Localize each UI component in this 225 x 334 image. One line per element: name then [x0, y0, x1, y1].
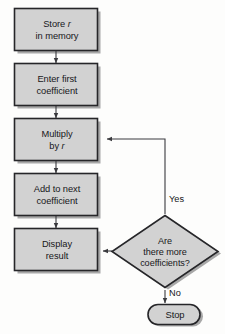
edge-label-yes: Yes	[169, 194, 184, 204]
shape-store	[15, 9, 98, 51]
shape-multiply	[15, 119, 98, 161]
shape-add-next	[15, 174, 98, 216]
edge-label-no: No	[169, 288, 181, 298]
flowchart-graphics	[0, 0, 225, 334]
shape-stop	[148, 305, 200, 325]
node-shapes	[15, 9, 219, 325]
shape-display	[15, 229, 98, 271]
flowchart-canvas: Store r in memory Enter first coefficien…	[0, 0, 225, 334]
shape-decision	[112, 216, 218, 288]
node-shadows	[18, 12, 222, 327]
edge-yes-loop-to-multiply	[107, 139, 165, 214]
shape-enter-first	[15, 64, 98, 106]
